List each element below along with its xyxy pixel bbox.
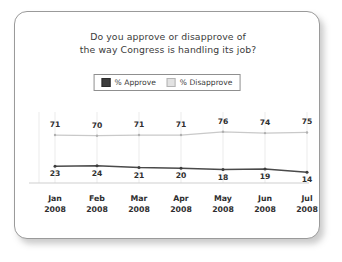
value-label-0-3: 71 bbox=[176, 120, 187, 129]
x-tick-4: May2008 bbox=[212, 194, 234, 215]
data-point-0-5 bbox=[264, 132, 266, 134]
data-point-0-4 bbox=[222, 131, 224, 133]
data-point-1-6 bbox=[306, 171, 309, 174]
value-label-0-5: 74 bbox=[260, 118, 271, 127]
x-tick-3-line-0: Apr bbox=[170, 194, 192, 205]
value-label-0-2: 71 bbox=[134, 120, 145, 129]
x-tick-1-line-1: 2008 bbox=[86, 205, 108, 216]
value-label-1-6: 14 bbox=[302, 175, 313, 184]
x-tick-1-line-0: Feb bbox=[86, 194, 108, 205]
data-point-1-2 bbox=[138, 166, 141, 169]
x-tick-5-line-0: Jun bbox=[254, 194, 276, 205]
value-label-1-2: 21 bbox=[134, 171, 145, 180]
data-point-0-3 bbox=[180, 134, 182, 136]
x-tick-3: Apr2008 bbox=[170, 194, 192, 215]
x-tick-4-line-0: May bbox=[212, 194, 234, 205]
data-point-0-1 bbox=[96, 135, 98, 137]
data-point-0-2 bbox=[138, 134, 140, 136]
chart-legend: % Approve % Disapprove bbox=[94, 74, 241, 91]
data-point-0-6 bbox=[306, 131, 308, 133]
value-label-1-3: 20 bbox=[176, 171, 187, 180]
legend-label-approve: % Approve bbox=[115, 78, 156, 87]
value-label-0-1: 70 bbox=[92, 121, 103, 130]
value-label-1-4: 18 bbox=[218, 173, 229, 182]
x-tick-6-line-0: Jul bbox=[296, 194, 318, 205]
x-tick-0: Jan2008 bbox=[44, 194, 66, 215]
x-tick-5: Jun2008 bbox=[254, 194, 276, 215]
x-tick-1: Feb2008 bbox=[86, 194, 108, 215]
legend-swatch-disapprove-icon bbox=[167, 78, 176, 87]
value-label-1-1: 24 bbox=[92, 169, 103, 178]
value-label-1-0: 23 bbox=[50, 169, 61, 178]
legend-label-disapprove: % Disapprove bbox=[180, 78, 233, 87]
data-point-0-0 bbox=[54, 134, 56, 136]
screenshot-root: Do you approve or disapprove of the way … bbox=[0, 0, 342, 262]
x-tick-3-line-1: 2008 bbox=[170, 205, 192, 216]
chart-card: Do you approve or disapprove of the way … bbox=[14, 11, 320, 239]
legend-swatch-approve-icon bbox=[102, 78, 111, 87]
value-label-0-6: 75 bbox=[302, 117, 313, 126]
x-tick-2-line-0: Mar bbox=[128, 194, 150, 205]
chart-x-axis: Jan2008Feb2008Mar2008Apr2008May2008Jun20… bbox=[29, 192, 309, 224]
data-point-1-5 bbox=[264, 167, 267, 170]
data-point-1-3 bbox=[180, 167, 183, 170]
chart-title-line-2: the way Congress is handling its job? bbox=[15, 44, 321, 57]
data-point-1-0 bbox=[54, 165, 57, 168]
value-label-1-5: 19 bbox=[260, 172, 271, 181]
x-tick-6-line-1: 2008 bbox=[296, 205, 318, 216]
legend-item-approve[interactable]: % Approve bbox=[102, 78, 156, 87]
x-tick-0-line-0: Jan bbox=[44, 194, 66, 205]
chart-plot-area: 7170717176747523242120181914 bbox=[29, 112, 309, 189]
x-tick-5-line-1: 2008 bbox=[254, 205, 276, 216]
x-tick-2: Mar2008 bbox=[128, 194, 150, 215]
value-label-0-0: 71 bbox=[50, 120, 61, 129]
legend-item-disapprove[interactable]: % Disapprove bbox=[167, 78, 233, 87]
value-label-0-4: 76 bbox=[218, 117, 229, 126]
chart-title: Do you approve or disapprove of the way … bbox=[15, 31, 321, 56]
x-tick-2-line-1: 2008 bbox=[128, 205, 150, 216]
chart-title-line-1: Do you approve or disapprove of bbox=[15, 31, 321, 44]
data-point-1-4 bbox=[222, 168, 225, 171]
x-tick-0-line-1: 2008 bbox=[44, 205, 66, 216]
x-tick-4-line-1: 2008 bbox=[212, 205, 234, 216]
x-tick-6: Jul2008 bbox=[296, 194, 318, 215]
data-point-1-1 bbox=[96, 164, 99, 167]
